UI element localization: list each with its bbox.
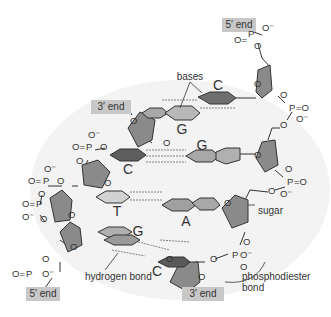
svg-text:O: O xyxy=(163,137,170,148)
svg-text:O: O xyxy=(243,236,250,247)
svg-text:O: O xyxy=(254,149,261,160)
svg-text:O=: O= xyxy=(234,34,247,45)
svg-text:O⁻: O⁻ xyxy=(22,211,34,222)
svg-text:O⁻: O⁻ xyxy=(88,129,100,140)
three-prime-top-label: 3′ end xyxy=(98,101,125,112)
svg-text:O⁻: O⁻ xyxy=(44,163,56,174)
svg-text:O: O xyxy=(268,185,275,196)
svg-text:O=: O= xyxy=(28,175,41,186)
svg-text:O: O xyxy=(104,177,111,188)
svg-text:O⁻: O⁻ xyxy=(296,113,308,124)
svg-text:O: O xyxy=(210,253,217,264)
base-letter-g-upper-right: G xyxy=(197,137,208,153)
dna-diagram: 5′ end 3′ end 5′ end 3′ end bases sugar … xyxy=(0,0,331,317)
svg-text:P: P xyxy=(289,102,295,113)
base-letter-c-mid: C xyxy=(123,161,133,177)
svg-text:=O: =O xyxy=(294,176,307,187)
base-letter-g-lower: G xyxy=(133,223,144,239)
three-prime-bottom-label: 3′ end xyxy=(190,288,217,299)
svg-text:O: O xyxy=(285,163,292,174)
svg-text:O: O xyxy=(254,78,261,89)
sugar-label: sugar xyxy=(258,205,284,216)
svg-text:=O: =O xyxy=(296,102,309,113)
base-letter-t: T xyxy=(113,203,122,219)
hydrogen-bond-label: hydrogen bond xyxy=(85,271,152,282)
base-letter-c-top: C xyxy=(213,77,223,93)
svg-text:O: O xyxy=(70,241,77,252)
svg-text:O⁻: O⁻ xyxy=(280,188,292,199)
svg-text:O=: O= xyxy=(72,141,85,152)
svg-text:P: P xyxy=(248,28,254,39)
svg-text:O: O xyxy=(240,261,247,272)
five-prime-bottom-label: 5′ end xyxy=(30,288,57,299)
svg-text:O: O xyxy=(224,197,231,208)
svg-text:P: P xyxy=(36,198,42,209)
svg-text:O: O xyxy=(68,209,75,220)
svg-text:O: O xyxy=(76,155,83,166)
svg-text:P: P xyxy=(43,175,49,186)
svg-text:O: O xyxy=(40,213,47,224)
svg-text:P: P xyxy=(86,141,92,152)
svg-text:O: O xyxy=(280,119,287,130)
phosphodiester-label-line1: phosphodiester xyxy=(242,271,311,282)
base-letter-c-bottom: C xyxy=(152,263,162,279)
svg-text:O: O xyxy=(198,271,205,282)
svg-text:P: P xyxy=(232,249,238,260)
svg-text:O: O xyxy=(280,89,287,100)
svg-text:P: P xyxy=(287,176,293,187)
bases-label: bases xyxy=(177,71,204,82)
svg-text:O: O xyxy=(57,175,64,186)
svg-text:O⁻: O⁻ xyxy=(262,22,274,33)
phosphodiester-label-line2: bond xyxy=(242,282,264,293)
svg-text:P: P xyxy=(26,268,32,279)
svg-text:O: O xyxy=(100,141,107,152)
phosphate-bottom-left: O O= P O⁻ xyxy=(12,253,54,279)
svg-text:O: O xyxy=(166,253,173,264)
svg-text:O: O xyxy=(42,253,49,264)
svg-text:O=: O= xyxy=(22,198,35,209)
svg-text:O=: O= xyxy=(12,268,25,279)
svg-text:O⁻: O⁻ xyxy=(240,249,252,260)
svg-text:O: O xyxy=(130,115,137,126)
svg-text:O: O xyxy=(254,40,261,51)
base-letter-a: A xyxy=(181,213,191,229)
svg-text:O⁻: O⁻ xyxy=(42,268,54,279)
base-letter-g-upper-left: G xyxy=(177,121,188,137)
